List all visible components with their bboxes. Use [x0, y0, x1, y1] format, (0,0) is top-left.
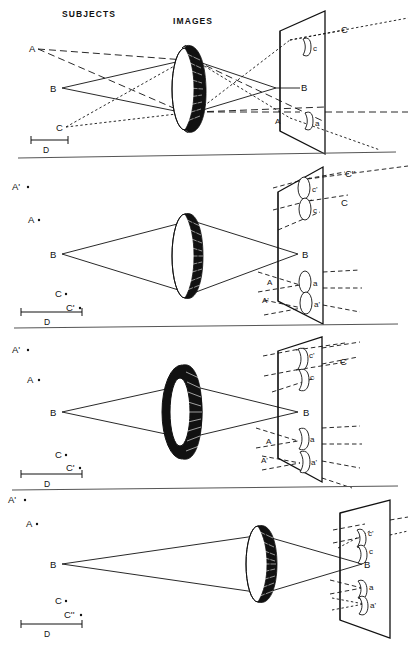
label-scale-D: D [44, 317, 50, 327]
label-image-B: B [303, 407, 309, 418]
image-blobs [357, 529, 368, 615]
header-images: IMAGES [173, 16, 213, 26]
label-ray-C-right: C [341, 197, 348, 208]
header-subjects: SUBJECTS [62, 9, 116, 19]
label-image-a: a [310, 435, 315, 444]
label-screen-A: A [267, 278, 273, 287]
label-screen-A-prime: A' [261, 456, 268, 465]
panel-4: A' A B C C'' c' c B a a' D [8, 494, 408, 639]
label-subject-A-prime: A' [12, 181, 20, 192]
label-image-B: B [301, 82, 307, 93]
label-image-a-prime: a' [311, 458, 317, 467]
subject-point-C [65, 600, 67, 602]
label-subject-C-prime: C' [66, 302, 75, 313]
label-scale-D: D [43, 145, 49, 155]
subject-point-A [36, 523, 38, 525]
label-screen-A: A [275, 117, 281, 126]
label-subject-C: C [55, 288, 62, 299]
ray-bundle-A [38, 49, 408, 122]
ray-bundle-B [62, 536, 362, 592]
label-subject-B: B [50, 407, 56, 418]
label-subject-A: A [26, 518, 33, 529]
label-subject-A: A [27, 374, 34, 385]
label-scale-D: D [44, 629, 50, 639]
label-subject-C: C [56, 122, 63, 133]
subject-point-A [38, 379, 40, 381]
label-image-c: c [313, 44, 317, 53]
label-subject-B: B [50, 83, 56, 94]
subject-point-A-prime [24, 499, 26, 501]
subject-point-C-dprime [80, 614, 82, 616]
label-subject-A: A [29, 43, 36, 54]
label-ray-C-right: C [340, 356, 347, 367]
label-image-c-prime: c' [368, 529, 374, 538]
ground-line [14, 324, 398, 328]
label-image-c: c [310, 373, 314, 382]
label-image-a: a [315, 119, 320, 128]
label-subject-A: A [28, 214, 35, 225]
subject-point-A-prime [27, 186, 29, 188]
label-subject-C: C [55, 595, 62, 606]
label-screen-A: A [266, 437, 272, 446]
label-screen-A-prime: A' [262, 296, 269, 305]
label-subject-C-dprime: C'' [64, 609, 75, 620]
label-image-a-prime: a' [370, 601, 376, 610]
label-subject-A-prime: A' [8, 494, 16, 505]
image-blobs [298, 177, 312, 314]
scale-bar: D [31, 136, 68, 155]
label-subject-C-prime: C' [66, 462, 75, 473]
label-image-B: B [302, 249, 308, 260]
label-subject-A-prime: A' [12, 344, 20, 355]
scale-bar: D [21, 620, 82, 639]
label-ray-C-dprime-right: C'' [345, 168, 356, 179]
label-subject-B: B [50, 249, 56, 260]
ray-bundle-A [330, 580, 364, 610]
subject-point-C-prime [79, 307, 81, 309]
lens [246, 525, 277, 602]
lens-annular [162, 365, 202, 460]
label-image-a-prime: a' [314, 300, 320, 309]
subject-point-C [65, 293, 67, 295]
panel-2: A' A B C C' c' c B a a' C'' C A A' D [12, 166, 408, 328]
label-ray-C-right: C [341, 24, 348, 35]
subject-point-C [65, 454, 67, 456]
label-scale-D: D [44, 479, 50, 489]
optics-figure: SUBJECTS IMAGES [0, 0, 408, 646]
ground-line [12, 486, 398, 490]
label-image-c-prime: c' [312, 185, 318, 194]
label-subject-C: C [55, 449, 62, 460]
label-image-a: a [369, 583, 374, 592]
label-image-c: c [369, 547, 373, 556]
panel-3: A' A B C C' c' c B a a' C A A' D [12, 337, 398, 490]
lens [172, 45, 206, 132]
label-subject-B: B [50, 559, 56, 570]
ray-bundle-C [66, 18, 408, 150]
panel-1: A B C c B a C A D [18, 11, 408, 158]
label-image-c-prime: c' [309, 351, 315, 360]
lens [172, 213, 203, 298]
subject-point-A [38, 219, 40, 221]
ground-line [18, 152, 396, 158]
label-image-a: a [313, 279, 318, 288]
label-image-c: c [313, 206, 317, 215]
subject-point-C-prime [79, 467, 81, 469]
subject-point-A-prime [27, 349, 29, 351]
label-image-B: B [364, 559, 370, 570]
